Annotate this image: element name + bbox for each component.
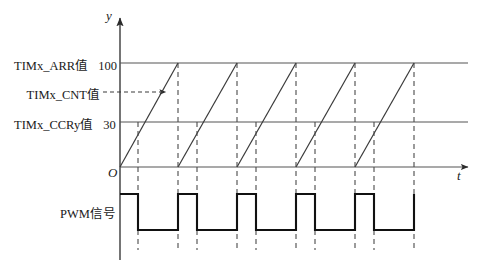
ccr-label-value: 30 (103, 118, 116, 132)
arr-label: TIMx_ARR值 100 (14, 55, 114, 74)
ccr-label: TIMx_CCRy值 30 (14, 114, 114, 133)
pwm-signal-label-text: PWM信号 (60, 207, 116, 221)
y-axis-label: y (106, 8, 112, 24)
pwm-timing-figure: TIMx_ARR值 100 TIMx_CNT值 TIMx_CCRy值 30 PW… (0, 0, 488, 276)
pwm-waveform (120, 194, 414, 230)
ramp-segment (237, 63, 296, 167)
ramp-segment (296, 63, 355, 167)
t-axis-label-text: t (457, 168, 461, 183)
cnt-label-text: TIMx_CNT值 (27, 88, 100, 102)
pwm-signal-label: PWM信号 (60, 203, 116, 222)
ramp-segment (120, 63, 178, 167)
pwm-waveform-group (120, 194, 414, 230)
axes-group (120, 18, 468, 260)
arr-label-value: 100 (98, 59, 117, 73)
dashed-guides-group (138, 63, 414, 250)
origin-label-text: O (108, 165, 117, 180)
ramp-segment (178, 63, 237, 167)
origin-label: O (108, 165, 117, 181)
counter-sawtooth-group (120, 63, 414, 167)
y-axis-label-text: y (106, 8, 112, 23)
t-axis-label: t (457, 168, 461, 184)
reference-lines-group (103, 63, 468, 122)
ccr-label-text: TIMx_CCRy值 (14, 118, 93, 132)
cnt-label: TIMx_CNT值 (14, 84, 100, 103)
arr-label-text: TIMx_ARR值 (14, 59, 88, 73)
pwm-timing-chart (0, 0, 488, 276)
ramp-segment (355, 63, 414, 167)
